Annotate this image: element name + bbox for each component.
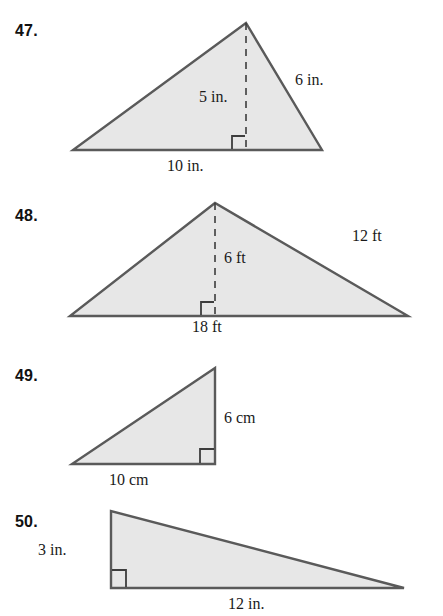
problem-48: 48. 6 ft 12 ft 18 ft: [0, 185, 443, 360]
label-47-slant-side: 6 in.: [295, 72, 323, 88]
problem-49: 49. 6 cm 10 cm: [0, 360, 443, 505]
label-47-base: 10 in.: [167, 158, 203, 174]
label-48-slant-side: 12 ft: [352, 228, 382, 244]
triangle-47-shape: [73, 23, 322, 150]
label-48-base: 18 ft: [192, 319, 222, 335]
worksheet-page: 47. 5 in. 6 in. 10 in. 48. 6 ft 12 ft 18…: [0, 0, 443, 616]
label-49-height: 6 cm: [224, 410, 256, 426]
figure-49-triangle: [0, 360, 443, 505]
triangle-49-shape: [72, 368, 215, 464]
problem-47: 47. 5 in. 6 in. 10 in.: [0, 0, 443, 185]
triangle-50-shape: [111, 511, 404, 588]
label-50-height: 3 in.: [38, 542, 66, 558]
label-48-height: 6 ft: [224, 250, 246, 266]
label-50-base: 12 in.: [228, 596, 264, 612]
label-47-height: 5 in.: [199, 89, 227, 105]
problem-50: 50. 3 in. 12 in.: [0, 505, 443, 616]
label-49-base: 10 cm: [109, 472, 149, 488]
figure-50-triangle: [0, 505, 443, 616]
